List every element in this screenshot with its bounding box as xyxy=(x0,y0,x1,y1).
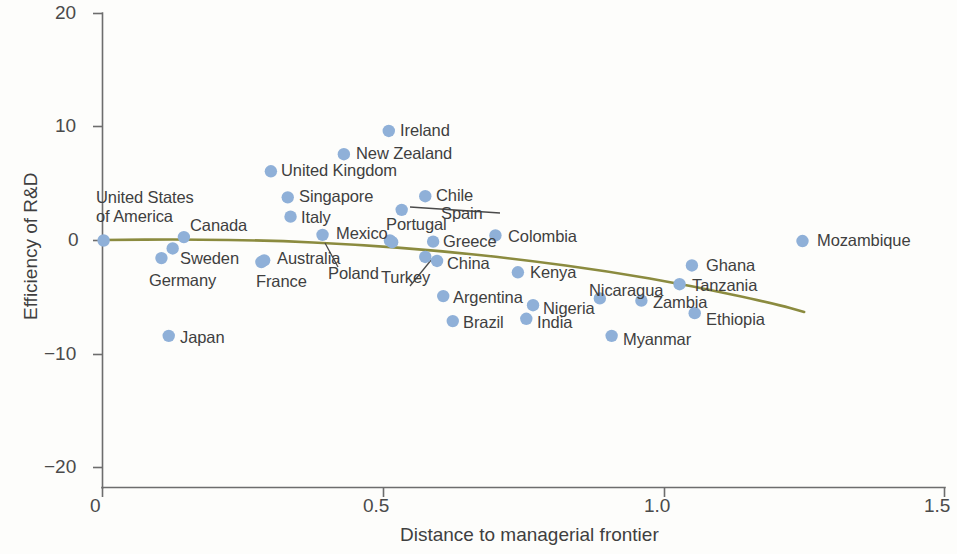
label-ireland: Ireland xyxy=(400,121,450,139)
label-united-states-line1: United States xyxy=(96,188,194,206)
data-point xyxy=(686,259,698,271)
data-point xyxy=(512,266,524,278)
label-united-kingdom: United Kingdom xyxy=(281,161,397,179)
data-point xyxy=(386,236,398,248)
y-tick-label-20: 20 xyxy=(55,2,76,24)
data-point xyxy=(447,315,459,327)
data-point xyxy=(383,125,395,137)
data-point xyxy=(605,330,617,342)
label-ghana: Ghana xyxy=(706,256,755,274)
x-axis-title: Distance to managerial frontier xyxy=(400,524,659,546)
label-myanmar: Myanmar xyxy=(623,330,691,348)
data-point xyxy=(527,299,539,311)
label-new-zealand: New Zealand xyxy=(356,144,452,162)
x-tick-label-0: 0 xyxy=(90,495,101,517)
label-singapore: Singapore xyxy=(299,187,373,205)
label-colombia: Colombia xyxy=(508,227,577,245)
label-tanzania: Tanzania xyxy=(692,276,757,294)
data-point xyxy=(265,165,277,177)
data-point xyxy=(166,242,178,254)
label-greece: Greece xyxy=(443,232,497,250)
label-kenya: Kenya xyxy=(530,263,576,281)
label-mexico: Mexico xyxy=(336,224,388,242)
label-japan: Japan xyxy=(180,328,224,346)
label-mozambique: Mozambique xyxy=(817,231,910,249)
data-point xyxy=(316,229,328,241)
data-point xyxy=(673,278,685,290)
label-chile: Chile xyxy=(436,186,473,204)
label-poland: Poland xyxy=(328,264,379,282)
label-canada: Canada xyxy=(190,216,247,234)
data-point xyxy=(258,254,270,266)
y-tick-label-10: 10 xyxy=(55,115,76,137)
label-portugal: Portugal xyxy=(386,215,447,233)
data-point xyxy=(338,148,350,160)
label-ethiopia: Ethiopia xyxy=(706,310,765,328)
data-point xyxy=(163,330,175,342)
x-tick-label-1.5: 1.5 xyxy=(924,495,950,517)
data-point xyxy=(419,190,431,202)
data-point xyxy=(419,251,431,263)
data-point xyxy=(155,252,167,264)
label-zambia: Zambia xyxy=(653,293,707,311)
label-argentina: Argentina xyxy=(453,288,523,306)
data-point xyxy=(437,290,449,302)
x-tick-label-0.5: 0.5 xyxy=(363,495,389,517)
label-brazil: Brazil xyxy=(463,313,504,331)
label-germany: Germany xyxy=(149,271,216,289)
label-united-states-line2: of America xyxy=(96,207,173,225)
scatter-plot-figure: 0 0.5 1.0 1.5 20 10 0 −10 −20 Efficiency… xyxy=(0,0,957,554)
data-point xyxy=(431,255,443,267)
label-france: France xyxy=(256,272,307,290)
label-italy: Italy xyxy=(301,208,331,226)
data-point xyxy=(178,231,190,243)
data-point xyxy=(520,313,532,325)
data-point xyxy=(427,235,439,247)
data-point xyxy=(284,210,296,222)
label-turkey: Turkey xyxy=(381,268,430,286)
label-china: China xyxy=(447,254,490,272)
y-tick-label-minus10: −10 xyxy=(44,343,76,365)
label-india: India xyxy=(537,313,572,331)
data-point xyxy=(97,234,109,246)
label-spain: Spain xyxy=(441,204,483,222)
y-tick-label-minus20: −20 xyxy=(44,456,76,478)
plot-canvas xyxy=(0,0,957,554)
data-point xyxy=(796,235,808,247)
x-tick-label-1.0: 1.0 xyxy=(644,495,670,517)
y-axis-title: Efficiency of R&D xyxy=(20,173,42,320)
data-point xyxy=(282,191,294,203)
y-tick-label-0: 0 xyxy=(68,229,79,251)
label-sweden: Sweden xyxy=(180,249,239,267)
